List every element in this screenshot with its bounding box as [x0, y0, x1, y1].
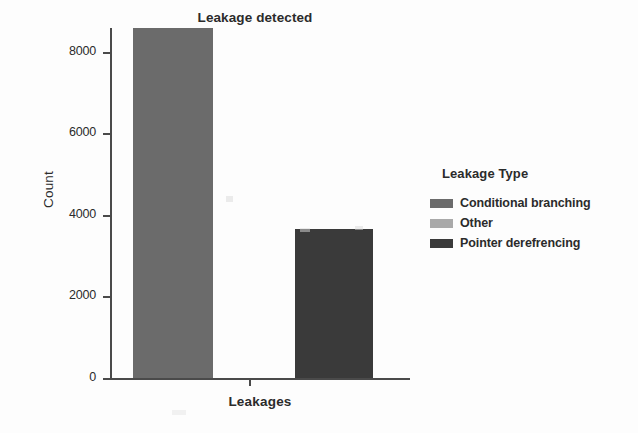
y-tick-0 — [103, 378, 111, 380]
chart-screenshot: Leakage detected 8000 6000 4000 2000 0 C… — [0, 0, 638, 433]
scan-speckle — [172, 410, 186, 415]
bar-conditional-branching — [133, 28, 213, 378]
chart-title: Leakage detected — [120, 10, 390, 25]
legend-item-conditional-branching: Conditional branching — [430, 195, 635, 211]
legend-swatch-icon — [430, 219, 453, 228]
y-tick-6000 — [103, 133, 111, 135]
y-axis-title: Count — [41, 130, 56, 250]
scan-speckle — [226, 196, 233, 202]
legend: Leakage Type Conditional branching Other… — [430, 166, 635, 255]
y-tick-2000 — [103, 296, 111, 298]
y-tick-label-8000: 8000 — [40, 44, 96, 58]
legend-item-pointer-derefrencing: Pointer derefrencing — [430, 235, 635, 251]
plot-area: Leakage detected 8000 6000 4000 2000 0 C… — [0, 0, 638, 433]
y-axis-line — [110, 28, 112, 379]
y-tick-4000 — [103, 215, 111, 217]
legend-title: Leakage Type — [442, 166, 635, 181]
legend-swatch-icon — [430, 199, 453, 208]
y-tick-label-0: 0 — [40, 370, 96, 384]
legend-item-other: Other — [430, 215, 635, 231]
legend-swatch-icon — [430, 239, 453, 248]
legend-item-label: Other — [460, 216, 493, 230]
x-axis-title: Leakages — [110, 394, 410, 409]
legend-item-label: Pointer derefrencing — [460, 236, 580, 250]
bar-pointer-derefrencing — [295, 229, 373, 378]
x-axis-center-tick — [249, 379, 251, 386]
legend-item-label: Conditional branching — [460, 196, 591, 210]
y-tick-label-2000: 2000 — [40, 288, 96, 302]
x-axis-line — [110, 378, 410, 380]
y-tick-8000 — [103, 52, 111, 54]
